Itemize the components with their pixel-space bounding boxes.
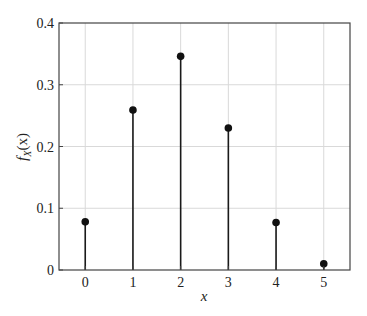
x-tick-label: 0 xyxy=(82,275,89,290)
x-tick-label: 5 xyxy=(320,275,327,290)
y-axis-label-tail: (x) xyxy=(14,133,31,151)
y-tick-labels: 00.10.20.30.4 xyxy=(37,16,55,278)
stem-chart: 012345 00.10.20.30.4 x fX(x) xyxy=(0,0,367,316)
y-tick-label: 0.2 xyxy=(37,140,55,155)
stem-marker xyxy=(272,219,280,227)
stem-marker xyxy=(177,53,185,61)
y-tick-label: 0 xyxy=(47,263,54,278)
stem-marker xyxy=(225,124,233,132)
x-axis-label: x xyxy=(200,288,208,304)
x-tick-label: 2 xyxy=(177,275,184,290)
y-tick-label: 0.4 xyxy=(37,16,55,31)
x-tick-label: 1 xyxy=(129,275,136,290)
stem-marker xyxy=(81,218,89,226)
x-tick-label: 4 xyxy=(273,275,280,290)
y-tick-label: 0.1 xyxy=(37,201,55,216)
grid-lines xyxy=(59,23,350,270)
x-tick-label: 3 xyxy=(225,275,232,290)
y-tick-label: 0.3 xyxy=(37,78,55,93)
stem-marker xyxy=(129,106,137,114)
y-axis-label: fX(x) xyxy=(14,133,33,161)
